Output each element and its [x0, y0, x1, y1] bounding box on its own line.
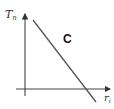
region-label-c: C: [63, 32, 72, 46]
diagram-canvas: Tn ri C: [0, 0, 114, 109]
y-axis-label: Tn: [5, 8, 17, 22]
x-axis-label: ri: [104, 92, 111, 104]
